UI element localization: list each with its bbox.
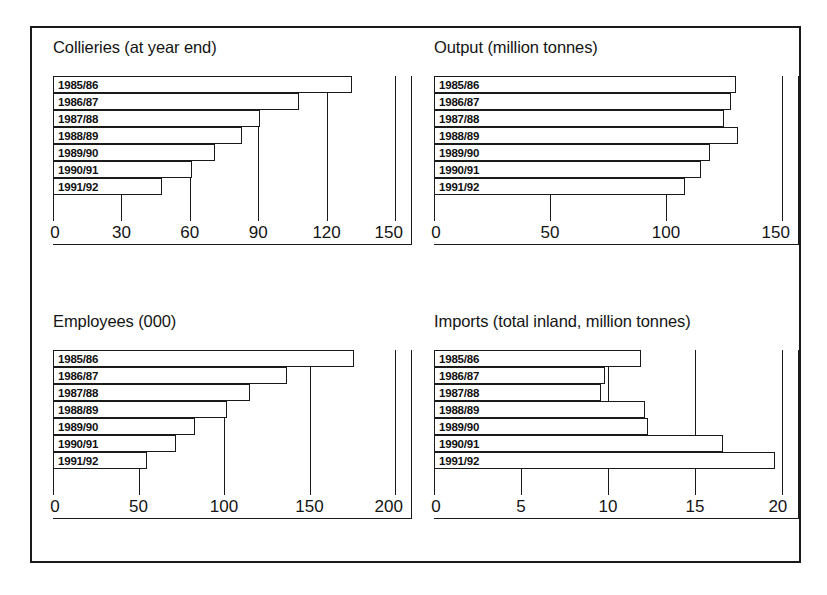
- bar: 1985/86: [53, 76, 352, 93]
- bar-category-label: 1985/86: [58, 79, 98, 91]
- x-axis-tick-label: 50: [129, 498, 148, 515]
- chart-panel-collieries: Collieries (at year end) 030609012015019…: [36, 32, 410, 282]
- plot-right-border: [411, 76, 412, 245]
- plot-right-border: [798, 350, 799, 519]
- bar-category-label: 1991/92: [439, 455, 479, 467]
- bar-category-label: 1988/89: [439, 130, 479, 142]
- x-axis-tick-label: 20: [768, 498, 787, 515]
- bar: 1985/86: [434, 76, 736, 93]
- x-axis-tick-label: 0: [50, 224, 59, 241]
- bar-category-label: 1987/88: [439, 113, 479, 125]
- plot-right-border: [411, 350, 412, 519]
- x-axis-tick-label: 200: [375, 498, 403, 515]
- bar-category-label: 1985/86: [439, 79, 479, 91]
- bar-category-label: 1986/87: [58, 96, 98, 108]
- x-axis-tick-stem: [782, 76, 783, 221]
- bar-category-label: 1988/89: [58, 404, 98, 416]
- bar-category-label: 1991/92: [58, 455, 98, 467]
- x-axis-tick-label: 120: [312, 224, 340, 241]
- bar: 1985/86: [53, 350, 354, 367]
- bar-category-label: 1990/91: [439, 164, 479, 176]
- bar-category-label: 1989/90: [58, 421, 98, 433]
- chart-title-output: Output (million tonnes): [434, 38, 598, 57]
- bar: 1991/92: [53, 452, 147, 469]
- plot-area-output: 0501001501985/861986/871987/881988/89198…: [434, 76, 800, 250]
- bar: 1986/87: [53, 93, 299, 110]
- bar-category-label: 1988/89: [439, 404, 479, 416]
- x-axis-baseline: [53, 244, 411, 245]
- bar-category-label: 1985/86: [58, 353, 98, 365]
- chart-title-imports: Imports (total inland, million tonnes): [434, 312, 691, 331]
- x-axis-tick-label: 60: [180, 224, 199, 241]
- bar-category-label: 1989/90: [58, 147, 98, 159]
- bar-category-label: 1985/86: [439, 353, 479, 365]
- bar: 1991/92: [434, 178, 685, 195]
- x-axis-tick-label: 0: [50, 498, 59, 515]
- bar-category-label: 1988/89: [58, 130, 98, 142]
- x-axis-baseline: [53, 518, 411, 519]
- bar: 1988/89: [434, 401, 645, 418]
- x-axis-tick-stem: [310, 350, 311, 495]
- x-axis-tick-stem: [395, 350, 396, 495]
- bar-category-label: 1987/88: [58, 387, 98, 399]
- bar-category-label: 1990/91: [439, 438, 479, 450]
- plot-right-border: [798, 76, 799, 245]
- bar: 1990/91: [53, 161, 192, 178]
- x-axis-tick-label: 100: [210, 498, 238, 515]
- bar: 1987/88: [434, 384, 601, 401]
- bar-category-label: 1986/87: [439, 96, 479, 108]
- chart-title-collieries: Collieries (at year end): [53, 38, 217, 57]
- x-axis-tick-label: 0: [431, 498, 440, 515]
- bar-category-label: 1991/92: [58, 181, 98, 193]
- x-axis-tick-label: 100: [652, 224, 680, 241]
- x-axis-tick-stem: [395, 76, 396, 221]
- bar-category-label: 1989/90: [439, 421, 479, 433]
- x-axis-tick-label: 10: [599, 498, 618, 515]
- bar: 1987/88: [53, 110, 260, 127]
- bar-category-label: 1986/87: [439, 370, 479, 382]
- bar-category-label: 1987/88: [58, 113, 98, 125]
- bar: 1986/87: [434, 93, 731, 110]
- bar: 1989/90: [53, 144, 215, 161]
- chart-title-employees: Employees (000): [53, 312, 176, 331]
- x-axis-tick-label: 150: [375, 224, 403, 241]
- x-axis-tick-stem: [782, 350, 783, 495]
- chart-panel-output: Output (million tonnes) 0501001501985/86…: [417, 32, 799, 282]
- bar: 1990/91: [53, 435, 176, 452]
- bar: 1990/91: [434, 435, 723, 452]
- plot-area-employees: 0501001502001985/861986/871987/881988/89…: [53, 350, 413, 524]
- bar: 1989/90: [53, 418, 195, 435]
- bar: 1991/92: [53, 178, 162, 195]
- bar-category-label: 1990/91: [58, 164, 98, 176]
- bar: 1989/90: [434, 418, 648, 435]
- bar-category-label: 1987/88: [439, 387, 479, 399]
- plot-area-imports: 051015201985/861986/871987/881988/891989…: [434, 350, 800, 524]
- plot-area-collieries: 03060901201501985/861986/871987/881988/8…: [53, 76, 413, 250]
- x-axis-tick-stem: [695, 350, 696, 495]
- bar: 1988/89: [53, 401, 227, 418]
- bar: 1989/90: [434, 144, 710, 161]
- bar-category-label: 1991/92: [439, 181, 479, 193]
- x-axis-tick-label: 50: [541, 224, 560, 241]
- x-axis-tick-label: 15: [686, 498, 705, 515]
- bar: 1988/89: [53, 127, 242, 144]
- bar: 1985/86: [434, 350, 641, 367]
- chart-panel-imports: Imports (total inland, million tonnes) 0…: [417, 306, 799, 558]
- x-axis-baseline: [434, 518, 798, 519]
- bar: 1988/89: [434, 127, 738, 144]
- bar: 1987/88: [434, 110, 724, 127]
- bar: 1986/87: [434, 367, 605, 384]
- bar-category-label: 1989/90: [439, 147, 479, 159]
- bar-category-label: 1990/91: [58, 438, 98, 450]
- x-axis-tick-label: 5: [516, 498, 525, 515]
- x-axis-baseline: [434, 244, 798, 245]
- x-axis-tick-label: 150: [295, 498, 323, 515]
- bar: 1991/92: [434, 452, 775, 469]
- bar: 1986/87: [53, 367, 287, 384]
- x-axis-tick-label: 0: [431, 224, 440, 241]
- x-axis-tick-stem: [327, 76, 328, 221]
- bar: 1990/91: [434, 161, 701, 178]
- x-axis-tick-label: 90: [249, 224, 268, 241]
- x-axis-tick-label: 30: [112, 224, 131, 241]
- bar: 1987/88: [53, 384, 250, 401]
